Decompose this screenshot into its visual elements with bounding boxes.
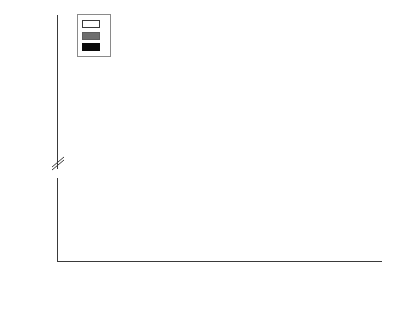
lower-panel [57,178,382,262]
legend-swatch-black-icon [82,43,100,51]
legend-item [82,30,105,41]
y-axis-tick-labels [0,0,57,311]
chart-legend [77,14,111,57]
chart-figure [0,0,404,311]
legend-item [82,42,105,53]
legend-swatch-gray-icon [82,32,100,40]
x-axis-tick-labels [57,266,382,296]
legend-item [82,19,105,30]
legend-swatch-white-icon [82,20,100,28]
